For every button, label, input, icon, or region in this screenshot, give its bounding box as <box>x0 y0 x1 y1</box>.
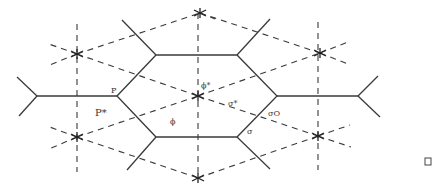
star-vertex-icon <box>71 132 83 142</box>
star-vertex-icon <box>312 131 324 141</box>
label-p: P <box>111 86 117 95</box>
star-vertex-icon <box>192 91 204 101</box>
label-sigma-star: σ* <box>228 99 237 108</box>
end-of-proof-icon <box>425 158 431 165</box>
star-vertex-icon <box>194 8 206 18</box>
star-vertex-icon <box>192 173 204 183</box>
label-phi: ϕ <box>170 117 176 126</box>
label-sigma-o: σO <box>268 109 280 118</box>
star-vertex-icon <box>314 48 326 58</box>
label-phi-star: ϕ* <box>201 81 210 90</box>
star-vertex-icon <box>71 49 83 59</box>
dual-lattice-diagram: P P* ϕ* ϕ σ* σO σ <box>0 0 441 189</box>
label-sigma: σ <box>247 127 253 136</box>
label-p-star: P* <box>95 107 107 118</box>
